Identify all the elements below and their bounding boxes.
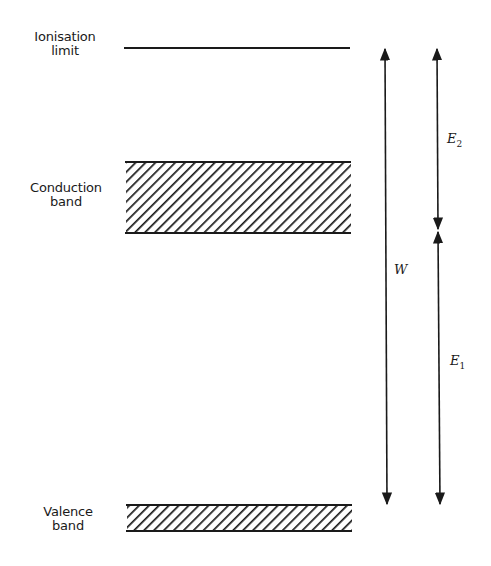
conduction-band [125,162,351,233]
e1-symbol: E1 [450,353,465,371]
valence-label-line1: Valence [20,505,116,519]
valence-band [126,505,352,531]
conduction-label-line2: band [18,195,114,209]
conduction-label-line1: Conduction [18,181,114,195]
valence-band-label: Valence band [20,505,116,533]
energy-diagram-canvas [0,0,491,566]
ionisation-label-line2: limit [20,44,110,58]
valence-label-line2: band [20,519,116,533]
ionisation-limit-label: Ionisation limit [20,30,110,58]
e2-arrow [437,49,438,229]
e2-symbol: E2 [447,131,462,149]
ionisation-label-line1: Ionisation [20,30,110,44]
e1-arrow [438,232,440,504]
w-symbol: W [394,262,407,277]
w-arrow [385,49,387,504]
conduction-band-label: Conduction band [18,181,114,209]
